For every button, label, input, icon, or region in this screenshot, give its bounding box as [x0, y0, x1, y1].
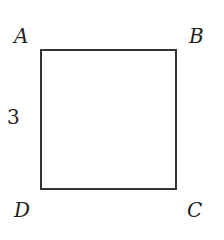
square-abcd — [40, 49, 177, 190]
vertex-label-b: B — [189, 26, 204, 46]
vertex-label-c: C — [187, 200, 202, 220]
side-length-label: 3 — [7, 107, 20, 127]
vertex-label-a: A — [14, 26, 28, 46]
vertex-label-d: D — [14, 200, 30, 220]
